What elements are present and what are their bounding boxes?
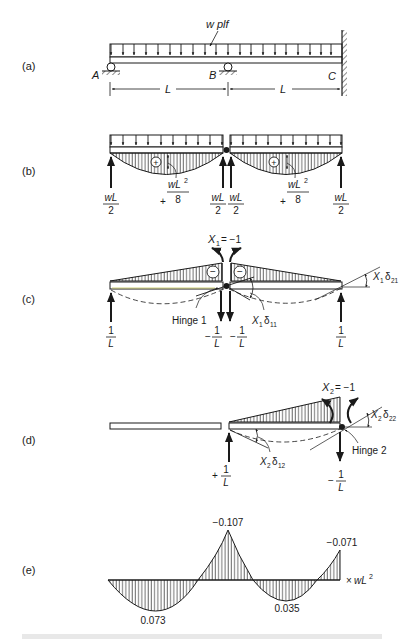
rotation-arc-12: [256, 429, 258, 442]
reaction-label-c2: − 1 L: [205, 325, 222, 349]
redundant-x1-label: X 1 = −1: [207, 233, 241, 247]
reaction-label-d1: + 1 L: [212, 464, 231, 488]
distributed-load-span1: [110, 135, 223, 147]
panel-e-label: (e): [22, 564, 35, 576]
svg-text:wL: wL: [288, 179, 301, 190]
reaction-label-d2: − 1 L: [328, 469, 346, 493]
panel-c: (c) − − X 1 = −1: [22, 233, 399, 349]
svg-text:L: L: [108, 338, 114, 349]
delta11-label: X 1 δ 11: [251, 315, 277, 328]
value-span1-max: 0.073: [140, 615, 165, 626]
negative-sign-2: −: [237, 266, 243, 277]
roller-support-b: [219, 63, 237, 75]
hinge-dot: [224, 147, 230, 153]
svg-text:21: 21: [391, 277, 399, 284]
moment-diagram-span2: [230, 153, 342, 175]
fixed-support-c: [342, 30, 347, 96]
svg-text:+: +: [160, 196, 166, 207]
reaction-label-c3: − 1 L: [230, 325, 247, 349]
svg-text:+: +: [212, 470, 218, 481]
svg-text:1: 1: [259, 321, 263, 328]
panel-a-label: (a): [22, 60, 35, 72]
svg-text:−: −: [328, 475, 334, 486]
svg-text:2: 2: [108, 205, 114, 216]
positive-sign-1: +: [153, 158, 158, 168]
final-moment-support-c-negative: [317, 550, 340, 580]
final-moment-span2-positive: [253, 580, 317, 601]
svg-text:wL: wL: [354, 575, 367, 586]
moment-label-span2: + wL 2 8: [280, 177, 309, 207]
deflected-shape-1: [111, 289, 224, 304]
moment-label-span1: + wL 2 8: [160, 177, 189, 207]
svg-text:X: X: [321, 381, 330, 393]
svg-text:−: −: [205, 331, 211, 342]
svg-text:12: 12: [278, 462, 286, 469]
cropped-caption: [22, 634, 382, 639]
hinge-1-label: Hinge 1: [172, 315, 207, 326]
delta22-label: X 2 δ 22: [370, 409, 397, 422]
hinge-2-label: Hinge 2: [352, 445, 387, 456]
reaction-label-c1: 1 L: [106, 325, 116, 349]
roller-support-a: [102, 63, 120, 75]
deflected-shape-d: [230, 428, 342, 442]
svg-text:= −1: = −1: [221, 234, 241, 245]
moment-diagram-span1: [110, 153, 223, 175]
distributed-load: [110, 44, 342, 57]
unit-moment-left: [212, 248, 223, 262]
svg-text:2: 2: [338, 205, 344, 216]
svg-text:1: 1: [223, 464, 229, 475]
released-beam-d-1: [110, 423, 221, 429]
reaction-label-b1: wL 2: [103, 192, 119, 216]
final-moment-span1-positive: [108, 580, 198, 611]
unit-moment-d-right: [348, 398, 358, 423]
moment-diagram-c-span2: [231, 263, 341, 281]
svg-text:wL: wL: [230, 192, 243, 203]
support-b-label: B: [209, 69, 216, 81]
value-support-c: −0.071: [327, 537, 358, 548]
svg-text:wL: wL: [212, 192, 225, 203]
unit-moment-right: [230, 248, 241, 262]
rotation-arc-21: [365, 274, 367, 287]
dimension-lines: [110, 82, 340, 96]
moment-diagram-c-span1: [110, 263, 222, 281]
svg-text:2: 2: [378, 415, 382, 422]
svg-text:X: X: [251, 315, 259, 326]
delta11-leader: [250, 293, 264, 310]
svg-text:2: 2: [304, 177, 308, 184]
svg-text:1: 1: [338, 325, 344, 336]
svg-text:11: 11: [270, 321, 277, 328]
value-span2-max: 0.035: [274, 603, 299, 614]
svg-text:wL: wL: [105, 192, 118, 203]
svg-text:L: L: [338, 482, 344, 493]
svg-text:X: X: [372, 271, 380, 282]
panel-a: (a) w plf A: [22, 18, 347, 96]
svg-text:X: X: [370, 409, 378, 420]
svg-text:2: 2: [369, 573, 373, 580]
svg-text:1: 1: [239, 325, 245, 336]
svg-text:= −1: = −1: [335, 382, 355, 393]
simple-beam-2: [230, 147, 342, 153]
reaction-label-b4: wL 2: [333, 192, 349, 216]
support-c-label: C: [328, 70, 336, 82]
figure-canvas: (a) w plf A: [0, 0, 420, 639]
beam-abc: [110, 57, 342, 63]
svg-text:wL: wL: [168, 179, 181, 190]
svg-text:8: 8: [175, 194, 181, 205]
svg-text:L: L: [239, 338, 245, 349]
svg-text:1: 1: [380, 277, 384, 284]
svg-text:+: +: [280, 196, 286, 207]
value-support-b: −0.107: [213, 517, 244, 528]
span-label-bc: L: [280, 83, 286, 95]
svg-text:2: 2: [184, 177, 188, 184]
svg-text:wL: wL: [335, 192, 348, 203]
panel-b-label: (b): [22, 165, 35, 177]
svg-text:2: 2: [233, 205, 239, 216]
svg-text:X: X: [259, 456, 267, 467]
panel-c-label: (c): [22, 293, 35, 305]
panel-d: (d) X 2 = −1 X 2 δ 12 X 2 δ: [22, 381, 397, 493]
panel-b: (b): [22, 135, 349, 216]
svg-text:1: 1: [214, 325, 220, 336]
simple-beam-1: [110, 147, 223, 153]
hinge-2-leader: [345, 430, 358, 443]
panel-d-label: (d): [22, 434, 35, 446]
